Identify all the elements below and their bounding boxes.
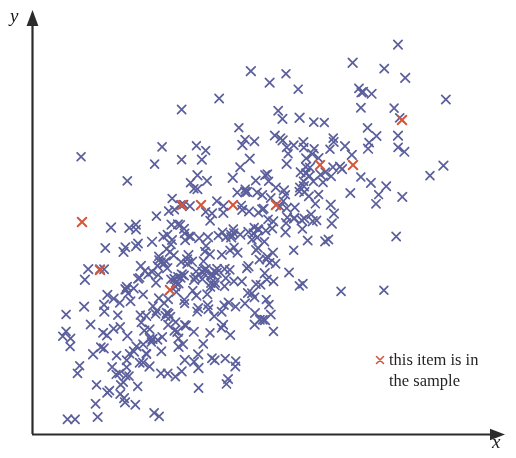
scatter-plot-figure: y x this item is in the sample xyxy=(0,0,516,458)
x-axis-label: x xyxy=(492,432,500,451)
legend: this item is in the sample xyxy=(374,349,478,391)
legend-label-line-2: the sample xyxy=(389,370,460,391)
legend-cross-icon xyxy=(374,350,386,370)
legend-row: this item is in xyxy=(374,349,478,370)
y-axis-label: y xyxy=(10,6,18,25)
legend-label-line-1: this item is in xyxy=(389,349,478,370)
